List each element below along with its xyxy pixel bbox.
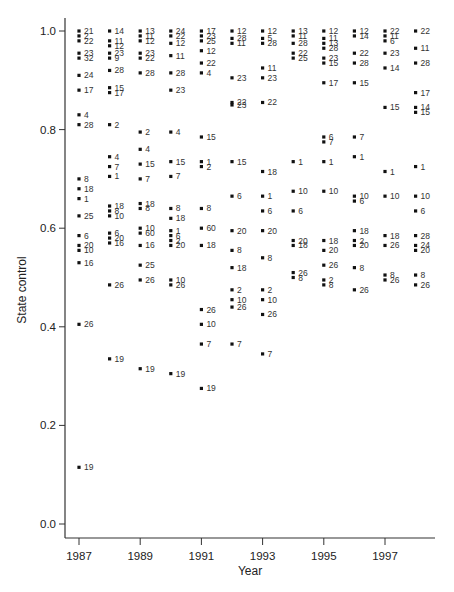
point-label: 28	[298, 38, 308, 48]
data-point: 7	[169, 171, 181, 181]
point-label: 7	[115, 162, 120, 172]
point-label: 4	[115, 152, 120, 162]
data-point: 26	[200, 305, 216, 315]
point-marker-icon	[77, 249, 80, 252]
point-marker-icon	[108, 69, 111, 72]
point-marker-icon	[261, 29, 264, 32]
point-marker-icon	[169, 207, 172, 210]
point-marker-icon	[77, 177, 80, 180]
point-marker-icon	[322, 190, 325, 193]
point-marker-icon	[169, 89, 172, 92]
data-point: 2	[139, 127, 151, 137]
point-label: 15	[176, 157, 186, 167]
point-label: 15	[390, 102, 400, 112]
point-marker-icon	[108, 214, 111, 217]
point-marker-icon	[322, 47, 325, 50]
data-point: 10	[414, 191, 430, 201]
y-tick-label: 0.8	[40, 124, 56, 136]
y-axis: 0.00.20.40.60.81.0	[40, 18, 65, 538]
point-marker-icon	[200, 227, 203, 230]
point-label: 10	[390, 191, 400, 201]
point-marker-icon	[169, 130, 172, 133]
point-marker-icon	[77, 214, 80, 217]
point-label: 17	[329, 78, 339, 88]
point-marker-icon	[139, 71, 142, 74]
point-label: 12	[145, 36, 155, 46]
data-point: 26	[383, 240, 399, 250]
point-marker-icon	[200, 29, 203, 32]
data-point: 28	[353, 58, 369, 68]
point-marker-icon	[108, 209, 111, 212]
data-point: 14	[383, 63, 399, 73]
data-point: 6	[414, 206, 426, 216]
point-label: 26	[237, 302, 247, 312]
point-label: 26	[176, 280, 186, 290]
point-label: 28	[176, 68, 186, 78]
point-marker-icon	[261, 229, 264, 232]
point-marker-icon	[169, 160, 172, 163]
point-marker-icon	[322, 57, 325, 60]
data-point: 10	[322, 186, 338, 196]
point-marker-icon	[353, 244, 356, 247]
point-marker-icon	[139, 34, 142, 37]
point-label: 8	[84, 174, 89, 184]
point-label: 10	[329, 186, 339, 196]
point-marker-icon	[139, 227, 142, 230]
point-marker-icon	[169, 175, 172, 178]
point-label: 8	[176, 203, 181, 213]
point-label: 18	[329, 236, 339, 246]
data-point: 17	[322, 78, 338, 88]
point-label: 2	[237, 285, 242, 295]
point-marker-icon	[322, 37, 325, 40]
point-marker-icon	[322, 61, 325, 64]
point-label: 14	[390, 63, 400, 73]
point-marker-icon	[77, 466, 80, 469]
y-axis-label: State control	[15, 256, 29, 323]
data-point: 1	[383, 167, 395, 177]
point-marker-icon	[108, 204, 111, 207]
data-point: 60	[200, 223, 216, 233]
point-marker-icon	[77, 197, 80, 200]
point-marker-icon	[292, 34, 295, 37]
point-marker-icon	[77, 244, 80, 247]
point-marker-icon	[77, 34, 80, 37]
point-marker-icon	[414, 91, 417, 94]
point-label: 8	[359, 263, 364, 273]
data-point: 15	[139, 159, 155, 169]
point-marker-icon	[77, 74, 80, 77]
point-label: 8	[145, 203, 150, 213]
data-point: 19	[108, 354, 124, 364]
data-point: 19	[77, 462, 93, 472]
point-label: 1	[390, 167, 395, 177]
point-marker-icon	[200, 135, 203, 138]
point-marker-icon	[230, 229, 233, 232]
point-marker-icon	[292, 42, 295, 45]
point-label: 18	[176, 213, 186, 223]
x-tick-label: 1995	[311, 550, 337, 562]
point-label: 22	[145, 53, 155, 63]
point-marker-icon	[322, 264, 325, 267]
point-marker-icon	[322, 249, 325, 252]
data-point: 23	[169, 85, 185, 95]
data-point: 10	[292, 186, 308, 196]
point-marker-icon	[108, 236, 111, 239]
point-label: 11	[176, 51, 185, 61]
data-point: 18	[383, 231, 399, 241]
point-label: 2	[268, 285, 273, 295]
point-label: 6	[421, 206, 426, 216]
point-marker-icon	[383, 244, 386, 247]
point-marker-icon	[77, 234, 80, 237]
data-point: 28	[414, 58, 430, 68]
point-marker-icon	[383, 195, 386, 198]
point-marker-icon	[108, 283, 111, 286]
data-point: 10	[200, 319, 216, 329]
data-point: 17	[414, 88, 430, 98]
data-point: 1	[414, 162, 426, 172]
point-marker-icon	[77, 52, 80, 55]
point-marker-icon	[139, 177, 142, 180]
point-label: 10	[298, 186, 308, 196]
point-marker-icon	[322, 283, 325, 286]
data-point: 8	[353, 263, 365, 273]
point-label: 15	[359, 78, 369, 88]
point-label: 22	[421, 26, 431, 36]
